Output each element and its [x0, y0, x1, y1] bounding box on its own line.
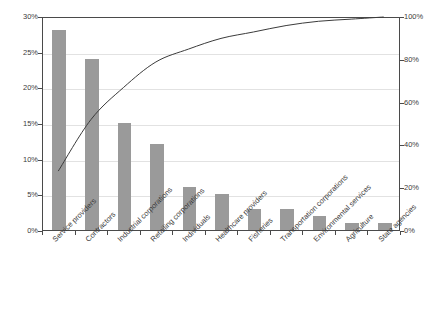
y-axis-left-tick [38, 231, 42, 232]
y-axis-right-tick [400, 231, 404, 232]
cumulative-line [58, 17, 383, 171]
y-axis-left-tick [38, 88, 42, 89]
y-axis-left-tick [38, 195, 42, 196]
y-axis-right-tick [400, 188, 404, 189]
y-axis-left-tick [38, 124, 42, 125]
x-axis-tick [205, 231, 206, 235]
x-axis-tick [270, 231, 271, 235]
y-axis-left-tick [38, 160, 42, 161]
x-axis-tick [107, 231, 108, 235]
cumulative-line-series [0, 0, 438, 325]
y-axis-left-tick [38, 53, 42, 54]
y-axis-right-tick [400, 60, 404, 61]
y-axis-right-tick [400, 17, 404, 18]
x-axis-tick [75, 231, 76, 235]
x-axis-tick [237, 231, 238, 235]
x-axis-tick [302, 231, 303, 235]
pareto-chart: 0%5%10%15%20%25%30% 0%20%40%60%80%100% S… [0, 0, 438, 325]
x-axis-tick [335, 231, 336, 235]
y-axis-right-tick [400, 145, 404, 146]
y-axis-left-tick [38, 17, 42, 18]
x-axis-tick [140, 231, 141, 235]
y-axis-right-tick [400, 103, 404, 104]
x-axis-tick [42, 231, 43, 235]
x-axis-tick [367, 231, 368, 235]
x-axis-tick [172, 231, 173, 235]
